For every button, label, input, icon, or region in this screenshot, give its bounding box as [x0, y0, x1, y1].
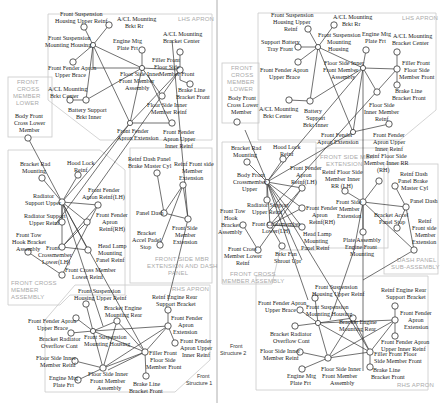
svg-text:Front Fender: Front Fender [163, 129, 195, 135]
node-c1[interactable] [39, 175, 45, 181]
svg-text:LHS APRON: LHS APRON [178, 16, 214, 22]
svg-text:Front Suspension: Front Suspension [84, 334, 127, 340]
node-E4[interactable] [315, 320, 320, 325]
svg-text:Reinf: Reinf [418, 218, 433, 224]
node-a5[interactable] [177, 49, 183, 55]
node-D6[interactable] [403, 204, 409, 210]
svg-text:Side Member Front: Side Member Front [374, 358, 422, 364]
node-A2[interactable] [331, 22, 337, 28]
node-b1[interactable] [25, 135, 31, 141]
node-E11[interactable] [299, 366, 305, 372]
region-label-front-cross-member-lower-2: FRONT CROSS MEMBER LOWER [227, 65, 255, 92]
node-E7[interactable] [292, 323, 298, 329]
svg-text:Body Front: Body Front [237, 172, 265, 178]
node-E12[interactable] [325, 355, 331, 361]
svg-text:Reinf Dash Panel: Reinf Dash Panel [128, 156, 171, 162]
node-D4[interactable] [360, 229, 366, 235]
region-label-lhs-apron-1: LHS APRON [178, 16, 214, 22]
node-E10[interactable] [367, 349, 373, 355]
node-a14[interactable] [169, 120, 175, 126]
svg-text:Engine Mtg: Engine Mtg [113, 38, 142, 44]
svg-text:A/CL Mounting: A/CL Mounting [333, 14, 372, 20]
node-c4[interactable] [95, 202, 101, 208]
node-a1[interactable] [81, 24, 87, 30]
svg-text:Overflow Cont: Overflow Cont [41, 343, 78, 349]
node-e5[interactable] [165, 323, 171, 329]
svg-text:Bracket Front: Bracket Front [392, 95, 426, 101]
node-e3[interactable] [114, 318, 120, 324]
svg-text:Reinf: Reinf [375, 116, 390, 122]
svg-text:Apron: Apron [408, 317, 424, 323]
node-A6[interactable] [394, 49, 400, 55]
node-A7[interactable] [295, 59, 301, 65]
node-C4[interactable] [299, 185, 305, 191]
node-a12[interactable] [159, 93, 165, 99]
svg-text:Bracket Center: Bracket Center [163, 38, 200, 44]
node-c5[interactable] [59, 219, 65, 225]
node-A9[interactable] [394, 66, 400, 72]
node-C7[interactable] [240, 222, 246, 228]
region-label-front-cross-member-assembly-2: FRONT CROSS MEMBER ASSEMBLY [222, 271, 285, 284]
svg-text:Apron Extension: Apron Extension [117, 135, 158, 141]
node-A12[interactable] [307, 98, 313, 104]
node-A5[interactable] [363, 47, 369, 53]
node-A1[interactable] [305, 26, 311, 32]
node-d4[interactable] [185, 216, 191, 222]
svg-text:Brake Line: Brake Line [133, 381, 161, 387]
node-c8[interactable] [59, 244, 65, 250]
svg-text:Assembly: Assembly [97, 385, 122, 391]
svg-text:FRONT CROSS: FRONT CROSS [11, 280, 57, 286]
node-A13[interactable] [374, 89, 380, 95]
node-e1[interactable] [83, 301, 89, 307]
node-D2[interactable] [376, 178, 382, 184]
svg-text:Cross Lower: Cross Lower [227, 102, 258, 108]
svg-text:Bracket Radiator: Bracket Radiator [270, 331, 311, 337]
node-d1[interactable] [154, 170, 160, 176]
svg-text:Front Side: Front Side [336, 199, 362, 205]
node-a13[interactable] [127, 120, 132, 125]
svg-text:MEMBER ASSEMBLY: MEMBER ASSEMBLY [222, 278, 285, 284]
node-A8[interactable] [360, 65, 365, 70]
svg-text:Brkt Inner: Brkt Inner [76, 114, 101, 120]
node-A4[interactable] [315, 44, 320, 49]
svg-text:Front Tow: Front Tow [220, 208, 246, 214]
node-C1[interactable] [244, 159, 250, 165]
node-B1[interactable] [234, 119, 240, 125]
svg-text:A/CL Mounting: A/CL Mounting [163, 31, 202, 37]
node-D7[interactable] [394, 225, 400, 231]
node-D8[interactable] [411, 247, 417, 253]
node-d2[interactable] [180, 182, 186, 188]
node-A11[interactable] [286, 97, 292, 103]
svg-text:FRONT: FRONT [231, 65, 253, 71]
svg-text:Extension: Extension [173, 329, 197, 335]
node-E5[interactable] [392, 317, 398, 323]
svg-text:Front Member: Front Member [323, 67, 358, 73]
node-E2[interactable] [392, 303, 398, 309]
svg-text:Assembly: Assembly [125, 85, 150, 91]
node-a4[interactable] [139, 47, 145, 53]
svg-text:Front Fender: Front Fender [117, 128, 149, 134]
node-e6[interactable] [90, 328, 95, 333]
node-c9[interactable] [85, 247, 91, 253]
node-e13[interactable] [143, 373, 149, 379]
node-C11[interactable] [279, 243, 285, 249]
node-e10[interactable] [142, 349, 148, 355]
svg-text:Brake Master Cyl: Brake Master Cyl [128, 163, 172, 169]
node-e2[interactable] [165, 307, 171, 313]
node-e8[interactable] [172, 340, 178, 346]
node-a11[interactable] [83, 97, 89, 103]
svg-text:A/CL Mounting: A/CL Mounting [393, 33, 432, 39]
svg-text:Apron Upper: Apron Upper [373, 139, 405, 145]
svg-text:Head Lamp: Head Lamp [303, 231, 332, 237]
svg-text:Filler Front: Filler Front [152, 57, 180, 63]
svg-text:Front Suspension: Front Suspension [271, 12, 314, 18]
node-C6[interactable] [299, 205, 305, 211]
svg-text:Bracket: Bracket [137, 230, 156, 236]
svg-text:DASH PANEL: DASH PANEL [397, 257, 437, 263]
node-E3[interactable] [297, 307, 303, 313]
node-a8[interactable] [139, 65, 144, 70]
svg-text:Battery Support: Battery Support [68, 107, 107, 113]
node-c6[interactable] [84, 219, 90, 225]
svg-text:Panel Reinf: Panel Reinf [96, 257, 126, 263]
svg-text:Reinf: Reinf [280, 151, 295, 157]
